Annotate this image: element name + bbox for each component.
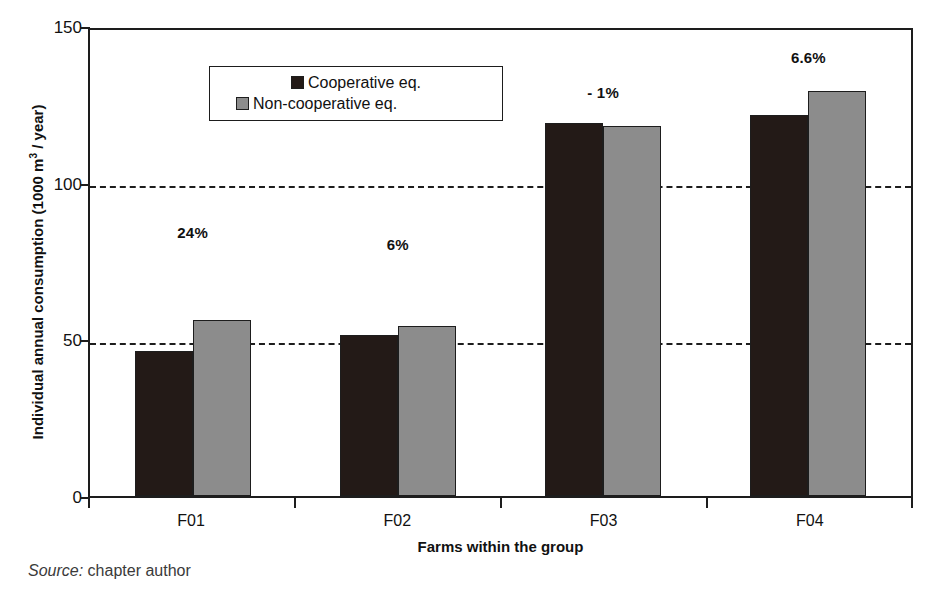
bar-group-F04: 6.6% — [706, 30, 911, 496]
legend-label-cooperative: Cooperative eq. — [308, 74, 421, 92]
bar-F04-non-cooperative[interactable] — [808, 91, 866, 496]
bar-group-F03: - 1% — [501, 30, 706, 496]
x-tick-mark-4 — [911, 498, 913, 508]
x-tick-label-F03: F03 — [501, 512, 707, 536]
annotation-F04: 6.6% — [738, 49, 878, 66]
bar-F02-cooperative[interactable] — [340, 335, 398, 496]
x-tick-mark-3 — [706, 498, 708, 508]
source-label: Source: — [28, 562, 83, 579]
bar-F03-cooperative[interactable] — [545, 123, 603, 496]
bar-F01-non-cooperative[interactable] — [193, 320, 251, 496]
annotation-F02: 6% — [328, 236, 468, 253]
x-tick-mark-0 — [88, 498, 90, 508]
x-axis-tick-labels: F01 F02 F03 F04 — [88, 512, 913, 536]
legend-item-cooperative[interactable]: Cooperative eq. — [218, 72, 494, 93]
x-axis-tick-marks — [88, 498, 913, 510]
legend-swatch-non-cooperative-icon — [236, 97, 249, 110]
bar-F03-non-cooperative[interactable] — [603, 126, 661, 496]
x-tick-mark-1 — [294, 498, 296, 508]
bar-F02-non-cooperative[interactable] — [398, 326, 456, 496]
source-caption: Source: chapter author — [28, 562, 191, 580]
bar-F04-cooperative[interactable] — [750, 115, 808, 496]
legend[interactable]: Cooperative eq. Non-cooperative eq. — [209, 66, 503, 121]
x-tick-label-F04: F04 — [707, 512, 913, 536]
bar-chart-figure: Individual annual consumption (1000 m3 /… — [0, 0, 934, 599]
x-tick-label-F02: F02 — [294, 512, 500, 536]
annotation-F01: 24% — [123, 224, 263, 241]
x-tick-label-F01: F01 — [88, 512, 294, 536]
x-tick-mark-2 — [500, 498, 502, 508]
source-value: chapter author — [83, 562, 191, 579]
legend-item-non-cooperative[interactable]: Non-cooperative eq. — [218, 93, 494, 114]
annotation-F03: - 1% — [533, 84, 673, 101]
plot-area: 24% 6% - 1% 6.6% — [88, 28, 913, 498]
legend-label-non-cooperative: Non-cooperative eq. — [253, 95, 397, 113]
bar-F01-cooperative[interactable] — [135, 351, 193, 496]
legend-swatch-cooperative-icon — [291, 76, 304, 89]
x-axis-title: Farms within the group — [88, 538, 913, 555]
